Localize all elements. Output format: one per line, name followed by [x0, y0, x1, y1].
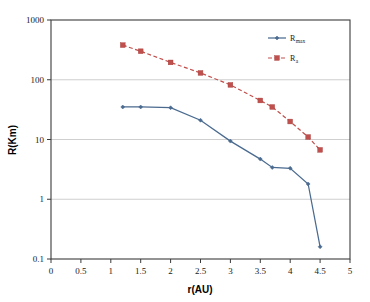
chart-container: 00.511.522.533.544.55 0.11101001000 Rmax…: [0, 0, 370, 302]
y-axis-title: R(Km): [7, 125, 18, 155]
legend-label-subscript: max: [296, 38, 306, 44]
x-tick-label: 0.5: [75, 266, 87, 276]
data-point-marker: [120, 43, 125, 48]
x-tick-label: 0: [49, 266, 54, 276]
x-tick-label: 1.5: [135, 266, 147, 276]
data-point-marker: [270, 105, 275, 110]
x-tick-label: 5: [348, 266, 353, 276]
x-tick-label: 3.5: [255, 266, 267, 276]
data-point-marker: [318, 147, 323, 152]
data-point-marker: [198, 71, 203, 76]
legend-marker: [275, 56, 280, 61]
data-point-marker: [306, 135, 311, 140]
x-tick-label: 1: [109, 266, 114, 276]
x-tick-label: 3: [228, 266, 233, 276]
data-point-marker: [228, 82, 233, 87]
x-tick-label: 4: [288, 266, 293, 276]
log-line-chart: 00.511.522.533.544.55 0.11101001000 Rmax…: [0, 0, 370, 302]
y-tick-label: 0.1: [33, 254, 44, 264]
chart-background: [0, 0, 370, 302]
data-point-marker: [168, 60, 173, 65]
x-tick-label: 2: [168, 266, 173, 276]
data-point-marker: [138, 49, 143, 54]
y-tick-label: 1000: [26, 15, 45, 25]
data-point-marker: [258, 98, 263, 103]
y-tick-label: 1: [40, 194, 45, 204]
x-axis-title: r(AU): [188, 284, 213, 295]
x-tick-label: 2.5: [195, 266, 207, 276]
y-tick-label: 100: [31, 75, 45, 85]
data-point-marker: [288, 119, 293, 124]
y-tick-label: 10: [35, 135, 45, 145]
x-tick-label: 4.5: [314, 266, 326, 276]
